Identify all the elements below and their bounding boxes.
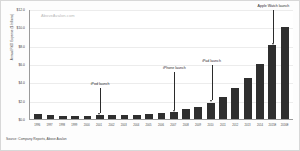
bar bbox=[121, 115, 129, 119]
bar bbox=[71, 116, 79, 119]
plot-area: iPod launchiPhone launchiPad launchApple… bbox=[29, 10, 293, 120]
bar bbox=[59, 116, 67, 119]
annotation-arrow-icon bbox=[173, 110, 175, 112]
bar bbox=[256, 64, 264, 119]
bar-slot bbox=[106, 10, 118, 119]
bar-slot bbox=[57, 10, 69, 119]
x-axis-tick-label: 1996 bbox=[31, 121, 43, 130]
bar-slot bbox=[131, 10, 143, 119]
y-axis-tick-label: $10.0 bbox=[1, 26, 25, 30]
x-axis-tick-label: 2006 bbox=[155, 121, 167, 130]
bar-slot bbox=[81, 10, 93, 119]
bar-slot bbox=[143, 10, 155, 119]
x-axis-tick-label: 2001 bbox=[93, 121, 105, 130]
bar-slot bbox=[44, 10, 56, 119]
y-axis-tick-label: $2.0 bbox=[1, 100, 25, 104]
bar bbox=[133, 115, 141, 119]
source-note: Source: Company Reports, Above Avalon bbox=[6, 137, 67, 141]
x-axis-tick-label: 2002 bbox=[105, 121, 117, 130]
chart-figure: Annual R&D Expense ($ billions) iPod lau… bbox=[0, 0, 300, 151]
chart-annotation-label: iPad launch bbox=[202, 59, 221, 63]
annotation-leader-line bbox=[212, 65, 213, 100]
bar-slot bbox=[266, 10, 278, 119]
bar bbox=[84, 116, 92, 119]
x-axis-tick-label: 2004 bbox=[130, 121, 142, 130]
bar bbox=[244, 78, 252, 119]
bar bbox=[207, 103, 215, 119]
bar bbox=[281, 27, 289, 119]
x-axis-ticks: 1996199719981999200020012002200320042005… bbox=[29, 121, 293, 130]
bar bbox=[170, 112, 178, 119]
bar bbox=[182, 109, 190, 119]
bar-slot bbox=[254, 10, 266, 119]
bar-slot bbox=[155, 10, 167, 119]
y-axis-tick-label: $8.0 bbox=[1, 45, 25, 49]
bar-slot bbox=[118, 10, 130, 119]
annotation-arrow-icon bbox=[98, 113, 100, 115]
bar-slot bbox=[229, 10, 241, 119]
bar-slot bbox=[217, 10, 229, 119]
bar bbox=[231, 88, 239, 119]
x-axis-tick-label: 2009 bbox=[192, 121, 204, 130]
bar-slot bbox=[242, 10, 254, 119]
watermark-label: AboveAvalon.com bbox=[41, 13, 75, 18]
bar bbox=[145, 114, 153, 119]
y-axis-tick-label: $0.0 bbox=[1, 118, 25, 122]
bar-series bbox=[30, 10, 293, 119]
x-axis-tick-label: 2014 bbox=[254, 121, 266, 130]
y-axis-tick-label: $12.0 bbox=[1, 8, 25, 12]
annotation-leader-line bbox=[100, 88, 101, 113]
x-axis-tick-label: 2012 bbox=[229, 121, 241, 130]
annotation-leader-line bbox=[174, 72, 175, 110]
chart-annotation-label: iPod launch bbox=[91, 82, 110, 86]
bar-slot bbox=[192, 10, 204, 119]
bar-slot bbox=[180, 10, 192, 119]
bar bbox=[158, 113, 166, 120]
x-axis-tick-label: 2007 bbox=[167, 121, 179, 130]
chart-annotation-label: Apple Watch launch bbox=[258, 4, 290, 8]
bar bbox=[47, 115, 55, 119]
x-axis-tick-label: 2008 bbox=[180, 121, 192, 130]
x-axis-tick-label: 2011 bbox=[217, 121, 229, 130]
bar-slot bbox=[279, 10, 291, 119]
x-axis-tick-label: 1998 bbox=[56, 121, 68, 130]
bar bbox=[34, 114, 42, 120]
x-axis-tick-label: 1997 bbox=[43, 121, 55, 130]
x-axis-tick-label: 2016E bbox=[279, 121, 291, 130]
y-axis-tick-label: $6.0 bbox=[1, 63, 25, 67]
y-axis-tick-label: $4.0 bbox=[1, 81, 25, 85]
x-axis-tick-label: 2010 bbox=[204, 121, 216, 130]
x-axis-tick-label: 2013 bbox=[241, 121, 253, 130]
bar bbox=[219, 97, 227, 119]
annotation-arrow-icon bbox=[272, 43, 274, 45]
chart-annotation-label: iPhone launch bbox=[163, 66, 186, 70]
bar bbox=[194, 107, 202, 119]
bar bbox=[108, 115, 116, 119]
x-axis-tick-label: 2005 bbox=[142, 121, 154, 130]
bar-slot bbox=[69, 10, 81, 119]
x-axis-tick-label: 2000 bbox=[81, 121, 93, 130]
annotation-arrow-icon bbox=[210, 100, 212, 102]
x-axis-tick-label: 2003 bbox=[118, 121, 130, 130]
bar-slot bbox=[32, 10, 44, 119]
bar bbox=[96, 115, 104, 119]
x-axis-tick-label: 2015E bbox=[266, 121, 278, 130]
x-axis-tick-label: 1999 bbox=[68, 121, 80, 130]
bar bbox=[268, 45, 276, 119]
annotation-leader-line bbox=[273, 10, 274, 43]
